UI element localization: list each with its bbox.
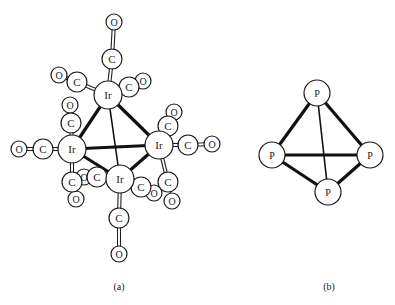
atom-ir-bottom: Ir	[106, 165, 134, 193]
atom-c8: C	[178, 135, 198, 155]
bond-p-top-p-bottom	[317, 93, 328, 192]
panel-b-p4: P P P P (b)	[259, 80, 383, 293]
svg-text:C: C	[108, 53, 115, 65]
svg-text:C: C	[164, 120, 171, 132]
figure-canvas: O O O C O C O C O C O C O C O C O C Ir I…	[0, 0, 395, 305]
svg-text:C: C	[73, 76, 80, 88]
svg-text:C: C	[68, 176, 75, 188]
svg-text:Ir: Ir	[104, 89, 112, 101]
svg-text:O: O	[72, 194, 79, 205]
svg-text:O: O	[170, 107, 177, 118]
atom-o8: O	[204, 136, 220, 152]
atom-c10: C	[109, 208, 129, 228]
svg-text:O: O	[15, 144, 22, 155]
p-p-bonds	[272, 93, 370, 192]
svg-text:C: C	[39, 143, 46, 155]
atom-p-right: P	[357, 142, 383, 168]
svg-text:O: O	[66, 100, 73, 111]
svg-text:C: C	[184, 139, 191, 151]
svg-text:O: O	[110, 17, 117, 28]
svg-text:O: O	[55, 70, 62, 81]
svg-text:Ir: Ir	[68, 143, 76, 155]
atoms-a: O O O C O C O C O C O C O C O C O C Ir I…	[11, 14, 220, 262]
svg-text:C: C	[67, 117, 74, 129]
svg-text:P: P	[325, 187, 331, 198]
atom-c4: C	[61, 113, 81, 133]
svg-text:Ir: Ir	[116, 173, 124, 185]
atom-c1: C	[102, 49, 122, 69]
atom-o6: O	[68, 191, 84, 207]
panel-a-ir4co12: O O O C O C O C O C O C O C O C O C Ir I…	[11, 14, 220, 293]
svg-text:O: O	[150, 188, 157, 199]
atom-c9: C	[158, 172, 178, 192]
atom-ir-top: Ir	[94, 81, 122, 109]
caption-a: (a)	[113, 281, 124, 293]
atom-o4: O	[62, 97, 78, 113]
svg-text:C: C	[125, 81, 132, 93]
svg-text:O: O	[115, 249, 122, 260]
atom-o9: O	[164, 193, 180, 209]
svg-text:P: P	[314, 88, 320, 99]
atom-c2: C	[67, 72, 87, 92]
atom-p-top: P	[304, 80, 330, 106]
atom-ir-right: Ir	[145, 131, 173, 159]
svg-text:P: P	[269, 150, 275, 161]
atom-o2: O	[51, 67, 67, 83]
caption-b: (b)	[323, 281, 335, 293]
atoms-b: P P P P	[259, 80, 383, 205]
atom-c11: C	[87, 167, 107, 187]
atom-o10: O	[111, 246, 127, 262]
atom-c6: C	[62, 172, 82, 192]
svg-text:P: P	[367, 150, 373, 161]
atom-ir-left: Ir	[58, 135, 86, 163]
atom-p-left: P	[259, 142, 285, 168]
svg-text:C: C	[164, 176, 171, 188]
atom-p-bottom: P	[315, 179, 341, 205]
svg-text:C: C	[115, 212, 122, 224]
svg-text:C: C	[93, 171, 100, 183]
atom-o5: O	[11, 141, 27, 157]
svg-text:Ir: Ir	[155, 139, 163, 151]
svg-text:O: O	[208, 139, 215, 150]
atom-c5: C	[33, 139, 53, 159]
svg-text:O: O	[139, 76, 146, 87]
atom-o1: O	[106, 14, 122, 30]
svg-text:O: O	[168, 196, 175, 207]
svg-text:C: C	[137, 181, 144, 193]
